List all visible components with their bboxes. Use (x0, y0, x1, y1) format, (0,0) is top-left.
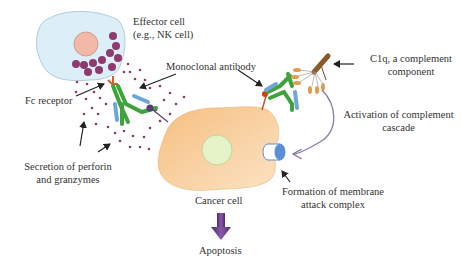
diagram-canvas: Effector cell (e.g., NK cell) Monoclonal… (0, 0, 471, 264)
complement-cascade-arrow (294, 90, 334, 154)
fc-receptor-label: Fc receptor (25, 94, 73, 107)
apoptosis-arrow (211, 213, 231, 240)
mac-label: Formation of membrane attack complex (278, 185, 388, 211)
fc-receptor-arrow (76, 84, 104, 96)
secretion-perforin-label: Secretion of perforin and granzymes (18, 160, 118, 186)
secretion-arrow-2 (98, 144, 110, 152)
effector-cell-label: Effector cell (e.g., NK cell) (133, 15, 193, 41)
cancer-nucleus (202, 135, 232, 165)
effector-nucleus (74, 32, 98, 56)
c1q-label: C1q, a complement component (356, 52, 466, 78)
activation-complement-label: Activation of complement cascade (336, 108, 461, 134)
mac-arrow (282, 171, 290, 182)
secretion-arrow-1 (80, 122, 84, 146)
c1q-complement (291, 56, 328, 94)
monoclonal-antibody-adcc (108, 76, 168, 124)
effector-cell (36, 11, 125, 80)
monoclonal-antibody-label: Monoclonal antibody (166, 60, 256, 73)
apoptosis-label: Apoptosis (199, 244, 242, 257)
monoclonal-antibody-cdc (262, 74, 297, 110)
membrane-attack-complex (263, 144, 285, 160)
cancer-cell (158, 107, 279, 191)
cancer-cell-label: Cancer cell (195, 194, 243, 207)
